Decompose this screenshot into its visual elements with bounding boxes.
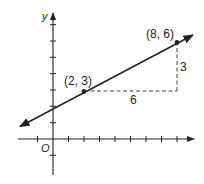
slope-line: [20, 35, 193, 127]
point-8-6: [175, 40, 180, 45]
point-label-8-6: (8, 6): [146, 27, 174, 41]
origin-label: O: [41, 142, 50, 154]
coordinate-plane: y O (2, 3) (8, 6) 6 3: [0, 0, 204, 184]
point-label-2-3: (2, 3): [64, 74, 92, 88]
point-2-3: [82, 89, 87, 94]
run-label: 6: [130, 93, 137, 107]
rise-label: 3: [180, 60, 187, 74]
y-axis-label: y: [41, 10, 49, 22]
